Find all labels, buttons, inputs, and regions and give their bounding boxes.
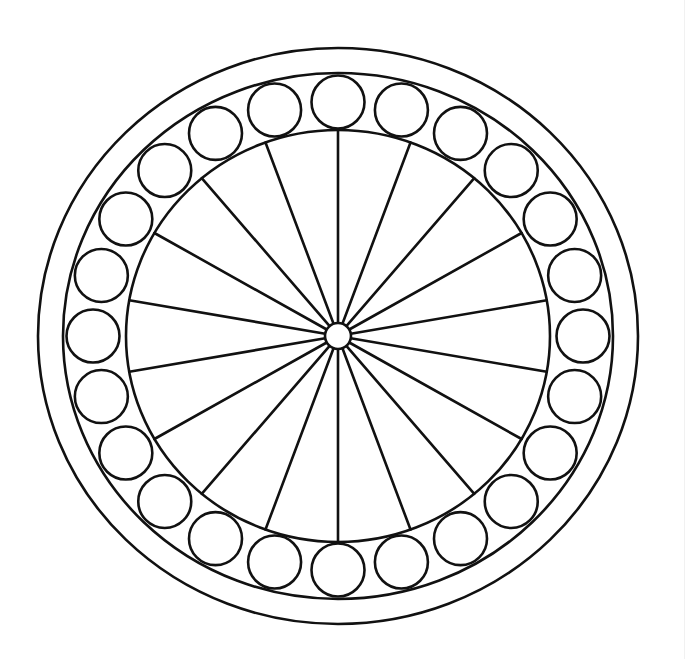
bead-circle <box>67 310 120 363</box>
bead-circle <box>248 83 301 136</box>
bead-circle <box>248 536 301 589</box>
bead-circle <box>99 193 152 246</box>
spoke-line <box>154 233 326 330</box>
bead-circle <box>485 475 538 528</box>
bead-circle <box>75 249 128 302</box>
wheel-svg <box>0 0 687 659</box>
bead-circle <box>434 512 487 565</box>
bead-circle <box>524 193 577 246</box>
spoke-line <box>129 300 325 334</box>
scan-edge-line <box>684 0 685 659</box>
spoke-line <box>265 142 333 323</box>
bead-circle <box>189 107 242 160</box>
bead-circle <box>557 310 610 363</box>
spoke-line <box>349 233 521 330</box>
hub-circle <box>325 323 351 349</box>
bead-circle <box>75 370 128 423</box>
spoke-line <box>202 346 330 494</box>
bead-circle <box>138 144 191 197</box>
bead-circle <box>99 427 152 480</box>
bead-circle <box>434 107 487 160</box>
spoke-line <box>265 348 333 529</box>
bead-circle <box>312 76 365 129</box>
spoke-line <box>154 343 326 440</box>
bead-circle <box>375 83 428 136</box>
spoke-line <box>351 338 547 372</box>
bead-circle <box>375 536 428 589</box>
hub-group <box>325 323 351 349</box>
bead-circle <box>548 370 601 423</box>
spoke-line <box>351 300 547 334</box>
bead-circle <box>138 475 191 528</box>
spoke-line <box>129 338 325 372</box>
bead-circle <box>189 512 242 565</box>
bead-circle <box>485 144 538 197</box>
spoke-line <box>342 348 410 529</box>
spoke-line <box>349 343 521 440</box>
spoke-line <box>342 142 410 323</box>
wheel-diagram: Wheel with spokes and ring of circles <box>0 0 687 659</box>
spoke-line <box>202 178 330 326</box>
spoke-line <box>346 178 474 326</box>
bead-circle <box>548 249 601 302</box>
spoke-line <box>346 346 474 494</box>
bead-circle <box>312 544 365 597</box>
bead-circle <box>524 427 577 480</box>
